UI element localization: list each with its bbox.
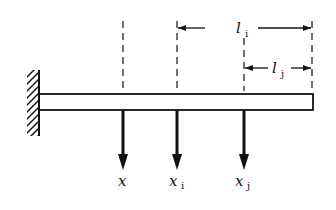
arrow-xj [239,110,249,170]
label-xj: x [235,172,244,190]
label-lj: l [272,59,277,77]
label-li-sub: i [245,28,248,39]
beam [39,94,313,110]
label-xi: x [169,172,178,190]
label-x: x [118,172,127,190]
cantilever-beam-diagram: l i l j x x i x j [0,0,336,210]
label-li: l [236,19,241,37]
reference-lines [123,21,312,91]
label-xi-sub: i [181,180,184,191]
label-xj-sub: j [246,180,250,191]
arrow-xi [172,110,182,170]
arrow-x [118,110,128,170]
label-lj-sub: j [280,68,284,79]
